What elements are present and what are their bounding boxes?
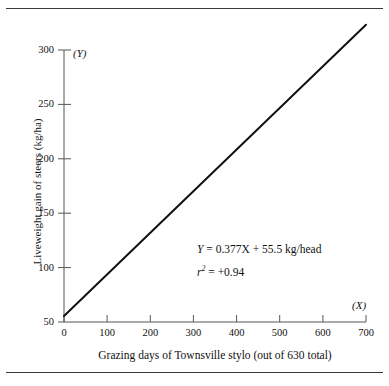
x-tick-label: 400 <box>217 328 257 339</box>
y-axis-variable-label: (Y) <box>73 47 86 59</box>
x-axis-ticks <box>64 315 366 322</box>
y-axis-title: Liveweight gain of steers (kg/ha) <box>32 77 43 307</box>
r-value: = +0.94 <box>205 266 244 278</box>
r-squared-statement: r2 = +0.94 <box>197 259 321 282</box>
equation-annotation: Y = 0.377X + 55.5 kg/head r2 = +0.94 <box>197 240 321 282</box>
y-axis-tick-stubs <box>64 50 71 268</box>
x-axis-variable-label: (X) <box>352 299 366 311</box>
y-axis-ticks <box>58 50 64 322</box>
y-tick-label: 50 <box>24 317 54 328</box>
regression-equation: Y = 0.377X + 55.5 kg/head <box>197 240 321 259</box>
x-tick-label: 500 <box>260 328 300 339</box>
x-tick-label: 100 <box>87 328 127 339</box>
equation-body: = 0.377X + 55.5 kg/head <box>203 243 321 255</box>
x-tick-label: 600 <box>303 328 343 339</box>
x-tick-label: 200 <box>130 328 170 339</box>
x-tick-label: 300 <box>173 328 213 339</box>
y-tick-label: 300 <box>24 45 54 56</box>
figure-container: 50 100 150 200 250 300 0 100 200 300 400… <box>0 0 389 386</box>
x-axis-title: Grazing days of Townsville stylo (out of… <box>64 349 366 361</box>
x-tick-label: 0 <box>44 328 84 339</box>
plot-area: 50 100 150 200 250 300 0 100 200 300 400… <box>0 0 389 386</box>
x-tick-label: 700 <box>346 328 386 339</box>
